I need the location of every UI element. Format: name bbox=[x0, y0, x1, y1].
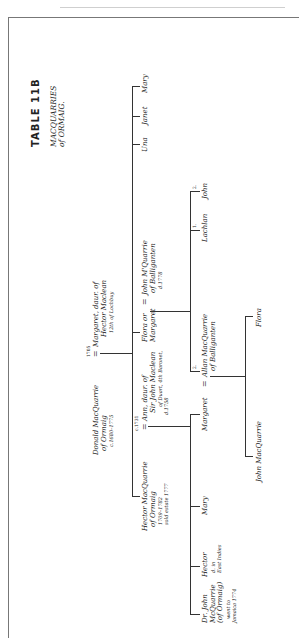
descent-line bbox=[150, 311, 190, 312]
table-title: TABLE 11B bbox=[30, 78, 41, 147]
person-detail: of Ormaig bbox=[150, 461, 158, 531]
descent-line bbox=[210, 376, 245, 377]
donald-macquarrie: Donald MacQuarrie of Ormaig c.1680–1775 bbox=[93, 385, 114, 455]
branch-line bbox=[245, 456, 253, 457]
person-detail: Hector Maclean bbox=[101, 280, 109, 347]
branch-line bbox=[190, 371, 200, 372]
subtitle-line: of ORMAIG. bbox=[58, 86, 66, 147]
marriage-symbol: = bbox=[200, 380, 209, 387]
branch-line bbox=[190, 230, 200, 231]
una: Una bbox=[142, 137, 150, 152]
branch-line bbox=[190, 414, 200, 415]
sibling-line bbox=[190, 192, 191, 372]
descent-line bbox=[148, 426, 190, 427]
marriage-symbol: = bbox=[91, 350, 100, 357]
birth-order: 1. bbox=[192, 224, 197, 228]
branch-line bbox=[245, 316, 253, 317]
person-dates: d.1778 bbox=[157, 240, 163, 295]
person-detail: Jamaica 1774 bbox=[231, 582, 237, 623]
person-detail: sold estate 1777 bbox=[163, 461, 169, 531]
mary-daughter: Mary bbox=[202, 496, 210, 515]
person-dates: d.1758 bbox=[163, 351, 169, 421]
marriage-year: c.1731 bbox=[134, 416, 139, 431]
sibling-line bbox=[245, 317, 246, 457]
branch-line bbox=[132, 144, 140, 145]
person-detail: of Balliganten bbox=[150, 240, 158, 295]
sibling-line bbox=[132, 87, 133, 497]
person-detail: of Balliganten bbox=[210, 314, 218, 377]
person-detail: (of Ormaig) bbox=[217, 582, 225, 623]
john-macquarrie-gen4: John MacQuarrie bbox=[256, 421, 264, 482]
dr-john-mcquarrie: Dr. John McQuarrie (of Ormaig) went to J… bbox=[202, 582, 237, 623]
branch-line bbox=[132, 332, 140, 333]
branch-line bbox=[132, 496, 140, 497]
branch-line bbox=[190, 614, 200, 615]
table-subtitle: MACQUARRIES of ORMAIG. bbox=[50, 86, 66, 147]
branch-line bbox=[190, 191, 200, 192]
john-mquarrie-balliganten: John M'Quarrie of Balliganten d.1778 bbox=[142, 240, 163, 295]
person-dates: c.1680–1775 bbox=[108, 385, 114, 455]
branch-line bbox=[132, 116, 140, 117]
branch-line bbox=[132, 86, 140, 87]
descent-line bbox=[100, 353, 132, 354]
mary: Mary bbox=[142, 74, 150, 93]
janet: Janet bbox=[142, 107, 150, 125]
person-detail: 12th of Lochbuy bbox=[108, 280, 114, 347]
ann-maclean: Ann, daur. of Sir John Maclean of Duart,… bbox=[142, 351, 169, 421]
person-name: Hector bbox=[202, 545, 210, 577]
allan-macquarrie: Allan MacQuarrie of Balliganten bbox=[202, 314, 217, 377]
branch-line bbox=[190, 506, 200, 507]
flora-gen4: Flora bbox=[256, 308, 264, 327]
sibling-line bbox=[190, 415, 191, 615]
margaret-maclean: Margaret, daur. of Hector Maclean 12th o… bbox=[93, 280, 114, 347]
branch-line bbox=[190, 566, 200, 567]
person-detail: East Indies bbox=[216, 545, 222, 577]
john-son: John bbox=[202, 183, 210, 199]
flora-or-margaret: Flora or Margaret bbox=[142, 308, 157, 342]
person-detail: of Ormaig bbox=[101, 385, 109, 455]
birth-order: 2. bbox=[192, 365, 197, 369]
marriage-symbol: = bbox=[140, 298, 149, 305]
lachlan: Lachlan bbox=[202, 214, 210, 242]
hector-macquarrie: Hector MacQuarrie of Ormaig 1709–1782 so… bbox=[142, 461, 169, 531]
person-name: Margaret bbox=[150, 308, 158, 342]
hector-junior: Hector d. in East Indies bbox=[202, 545, 222, 577]
person-detail: Sir John Maclean bbox=[150, 351, 158, 421]
birth-order: 2. bbox=[192, 185, 197, 189]
margaret-daughter: Margaret bbox=[202, 397, 210, 431]
